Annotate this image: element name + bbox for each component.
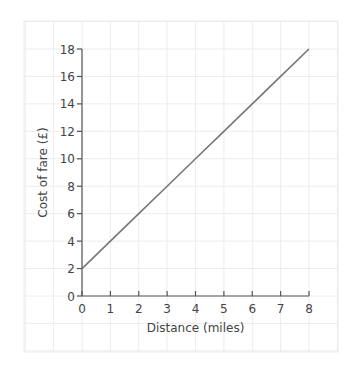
y-tick-label: 16	[60, 70, 75, 84]
y-tick-label: 8	[67, 180, 75, 194]
fare-distance-chart: 024681012141618 012345678 Distance (mile…	[0, 0, 356, 375]
y-tick-label: 12	[60, 125, 75, 139]
x-tick-label: 8	[305, 302, 313, 316]
y-tick-label: 4	[67, 235, 75, 249]
y-tick-label: 6	[67, 207, 75, 221]
x-tick-label: 4	[192, 302, 200, 316]
y-tick-label: 0	[67, 290, 75, 304]
x-tick-label: 6	[248, 302, 256, 316]
x-tick-label: 3	[163, 302, 171, 316]
y-tick-label: 10	[60, 152, 75, 166]
x-axis-ticks: 012345678	[78, 291, 313, 316]
y-tick-label: 14	[60, 97, 75, 111]
y-axis-label: Cost of fare (£)	[36, 127, 50, 217]
y-axis-ticks: 024681012141618	[60, 43, 82, 304]
x-tick-label: 7	[277, 302, 285, 316]
x-tick-label: 0	[78, 302, 86, 316]
chart-canvas: 024681012141618 012345678 Distance (mile…	[0, 0, 356, 375]
x-axis-label: Distance (miles)	[147, 321, 245, 335]
x-tick-label: 5	[220, 302, 228, 316]
y-tick-label: 2	[67, 262, 75, 276]
y-tick-label: 18	[60, 43, 75, 57]
x-tick-label: 1	[107, 302, 115, 316]
x-tick-label: 2	[135, 302, 143, 316]
